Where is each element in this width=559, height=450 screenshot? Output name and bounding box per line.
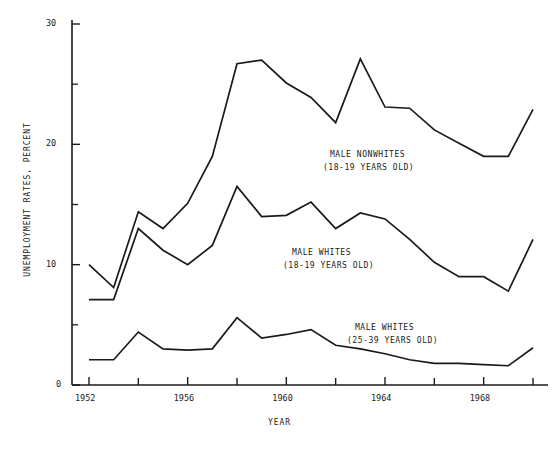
series-annotation: MALE NONWHITES <box>330 148 405 161</box>
y-tick-label: 0 <box>56 379 61 389</box>
x-tick-label: 1956 <box>174 393 194 403</box>
x-tick-label: 1960 <box>272 393 292 403</box>
y-axis-title: UNEMPLOYMENT RATES, PERCENT <box>23 105 32 295</box>
y-tick-label: 20 <box>46 138 56 148</box>
series-annotation: (18-19 YEARS OLD) <box>283 259 374 272</box>
y-tick-label: 10 <box>46 259 56 269</box>
x-tick-label: 1968 <box>470 393 490 403</box>
series-line-2 <box>89 318 533 366</box>
chart-plot-area <box>0 0 559 450</box>
series-line-1 <box>89 186 533 299</box>
series-annotation: (25-39 YEARS OLD) <box>347 334 438 347</box>
y-tick-label: 30 <box>46 18 56 28</box>
x-tick-label: 1964 <box>371 393 391 403</box>
x-tick-label: 1952 <box>75 393 95 403</box>
series-annotation: MALE WHITES <box>355 321 414 334</box>
series-annotation: MALE WHITES <box>292 246 351 259</box>
unemployment-rates-chart: UNEMPLOYMENT RATES, PERCENT YEAR 0102030… <box>0 0 559 450</box>
x-axis-title: YEAR <box>0 418 559 427</box>
series-annotation: (18-19 YEARS OLD) <box>323 161 414 174</box>
